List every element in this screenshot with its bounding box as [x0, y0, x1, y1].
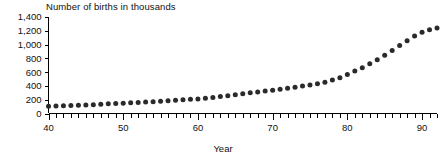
- data-point: [248, 90, 253, 95]
- data-point: [180, 97, 185, 102]
- x-axis: [49, 114, 438, 120]
- data-point: [98, 102, 103, 107]
- x-axis-title: Year: [0, 143, 446, 154]
- data-point: [330, 78, 335, 83]
- data-point: [188, 97, 193, 102]
- data-point: [293, 85, 298, 90]
- y-tick-label: 400: [26, 80, 42, 91]
- x-axis-ticks: [50, 114, 438, 120]
- data-point: [113, 101, 118, 106]
- data-point: [270, 88, 275, 93]
- chart-plot-area: 02004006008001,0001,2001,400 40506070809…: [0, 0, 446, 162]
- data-point: [218, 94, 223, 99]
- x-tick-label: 90: [417, 122, 428, 133]
- x-tick-label: 70: [267, 122, 278, 133]
- data-point: [263, 89, 268, 94]
- data-point: [225, 93, 230, 98]
- y-axis-ticks: [45, 18, 49, 115]
- data-point: [375, 57, 380, 62]
- data-point: [285, 86, 290, 91]
- data-point: [166, 98, 171, 103]
- data-point: [203, 96, 208, 101]
- data-point: [76, 103, 81, 108]
- y-tick-label: 200: [26, 94, 42, 105]
- data-point: [121, 101, 126, 106]
- data-point: [195, 96, 200, 101]
- y-axis-tick-labels: 02004006008001,0001,2001,400: [18, 11, 42, 119]
- y-tick-label: 1,400: [18, 11, 42, 22]
- data-point: [345, 72, 350, 77]
- data-point: [420, 30, 425, 35]
- y-tick-label: 800: [26, 53, 42, 64]
- data-point: [53, 104, 58, 109]
- x-tick-label: 80: [342, 122, 353, 133]
- y-axis: [45, 17, 49, 115]
- data-point: [173, 98, 178, 103]
- data-point: [382, 53, 387, 58]
- data-point: [427, 27, 432, 32]
- data-point: [352, 69, 357, 74]
- data-point: [300, 84, 305, 89]
- y-tick-label: 1,000: [18, 39, 42, 50]
- data-point-series: [46, 26, 440, 109]
- y-tick-label: 0: [36, 108, 41, 119]
- data-point: [255, 89, 260, 94]
- data-point: [322, 80, 327, 85]
- x-tick-label: 60: [193, 122, 204, 133]
- data-point: [91, 102, 96, 107]
- data-point: [83, 103, 88, 108]
- births-chart: Number of births in thousands 0200400600…: [0, 0, 446, 162]
- data-point: [240, 91, 245, 96]
- data-point: [412, 33, 417, 38]
- data-point: [158, 99, 163, 104]
- data-point: [46, 104, 51, 109]
- data-point: [128, 100, 133, 105]
- data-point: [61, 103, 66, 108]
- y-tick-label: 1,200: [18, 25, 42, 36]
- data-point: [68, 103, 73, 108]
- data-point: [233, 92, 238, 97]
- y-tick-label: 600: [26, 67, 42, 78]
- data-point: [397, 43, 402, 48]
- data-point: [315, 81, 320, 86]
- data-point: [136, 100, 141, 105]
- data-point: [106, 101, 111, 106]
- data-point: [435, 26, 440, 31]
- data-point: [405, 38, 410, 43]
- data-point: [278, 87, 283, 92]
- data-point: [390, 48, 395, 53]
- x-axis-tick-labels: 405060708090: [43, 122, 427, 133]
- data-point: [337, 75, 342, 80]
- x-tick-label: 50: [118, 122, 129, 133]
- data-point: [307, 82, 312, 87]
- data-point: [143, 100, 148, 105]
- data-point: [367, 61, 372, 66]
- x-tick-label: 40: [43, 122, 54, 133]
- data-point: [151, 99, 156, 104]
- data-point: [210, 95, 215, 100]
- data-point: [360, 65, 365, 70]
